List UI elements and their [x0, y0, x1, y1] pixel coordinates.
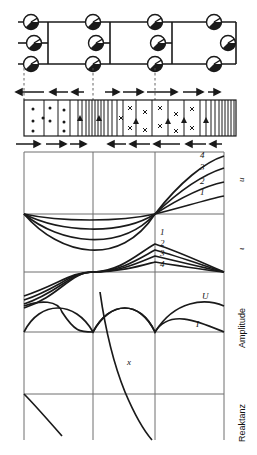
technical-figure	[0, 0, 257, 455]
axis-label-iota: ι	[236, 247, 246, 250]
reactance-curve-left	[24, 394, 62, 436]
current-curve-group	[24, 244, 224, 308]
arrow-row-upper	[16, 89, 220, 95]
axis-label-u: u	[236, 178, 246, 183]
curve-label-i-3: 3	[160, 249, 165, 258]
axis-title-reaktanz: Reaktanz	[237, 404, 247, 442]
voltage-curve-group	[24, 156, 224, 250]
curve-label-u-3: 3	[200, 163, 205, 172]
alignment-guides	[24, 68, 155, 100]
curve-label-u-2: 2	[200, 177, 205, 186]
curve-label-i-2: 2	[160, 239, 165, 248]
curve-label-i-4: 4	[160, 260, 165, 269]
wave-label-U: U	[202, 292, 209, 301]
arrow-row-lower	[16, 141, 222, 147]
field-distribution-band	[24, 100, 236, 136]
wave-label-I: I	[196, 320, 199, 329]
reactance-label-x: x	[127, 358, 131, 367]
reactance-curve-group	[24, 292, 152, 440]
wave-curve-I	[24, 302, 224, 332]
axis-title-amplitude: Amplitude	[237, 308, 247, 348]
ladder-network	[18, 22, 236, 64]
standing-wave-group	[24, 302, 224, 332]
plot-grid	[24, 152, 224, 440]
curve-label-u-1: 1	[200, 188, 205, 197]
circuit-element-symbols	[24, 15, 236, 72]
wave-curve-U	[24, 302, 224, 332]
curve-label-i-1: 1	[160, 228, 165, 237]
curve-label-u-4: 4	[200, 151, 205, 160]
